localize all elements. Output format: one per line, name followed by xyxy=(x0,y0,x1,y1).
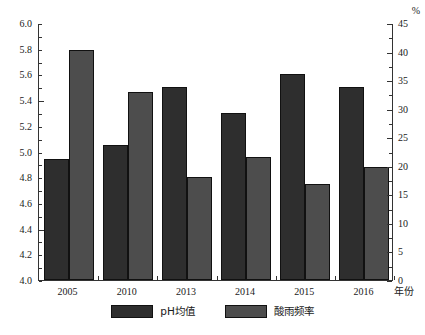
bar-ph-2013 xyxy=(162,87,187,280)
right-axis-major-tick xyxy=(387,24,392,25)
left-axis-minor-tick xyxy=(39,114,42,115)
bar-ph-2010 xyxy=(103,145,128,280)
legend-swatch-icon xyxy=(111,305,153,318)
right-axis-tick-label: 25 xyxy=(398,133,408,143)
left-axis-minor-tick xyxy=(39,268,42,269)
left-axis-major-tick xyxy=(39,101,44,102)
right-axis-minor-tick xyxy=(389,153,392,154)
right-axis-unit-label: % xyxy=(412,6,420,16)
left-axis-minor-tick xyxy=(39,140,42,141)
bar-ph-2016 xyxy=(339,87,364,280)
x-axis-tick xyxy=(157,276,158,280)
left-axis-minor-tick xyxy=(39,75,42,76)
legend-entry-ph: pH均值 xyxy=(111,305,195,318)
bar-ph-2015 xyxy=(280,74,305,280)
left-axis-minor-tick xyxy=(39,50,42,51)
right-axis-minor-tick xyxy=(389,95,392,96)
bar-ph-2005 xyxy=(44,159,69,280)
x-axis-label-2015: 2015 xyxy=(275,287,334,297)
right-axis-tick-label: 20 xyxy=(398,162,408,172)
left-axis-minor-tick xyxy=(39,191,42,192)
right-axis-major-tick xyxy=(387,252,392,253)
x-axis-title: 年份 xyxy=(394,287,414,297)
left-axis-minor-tick xyxy=(39,127,42,128)
left-axis-major-tick xyxy=(39,230,44,231)
legend-label: 酸雨频率 xyxy=(274,306,314,317)
legend-swatch-icon xyxy=(225,305,267,318)
legend-label: pH均值 xyxy=(160,306,195,317)
right-axis-minor-tick xyxy=(389,267,392,268)
right-axis-major-tick xyxy=(387,53,392,54)
right-axis-minor-tick xyxy=(389,238,392,239)
right-axis-major-tick xyxy=(387,81,392,82)
right-axis-minor-tick xyxy=(389,181,392,182)
left-axis-tick-label: 4.6 xyxy=(20,199,33,209)
right-axis-major-tick xyxy=(387,138,392,139)
bar-frequency-2014 xyxy=(246,157,271,280)
x-axis-tick xyxy=(276,276,277,280)
right-axis-major-tick xyxy=(387,224,392,225)
left-axis-tick-label: 5.8 xyxy=(20,45,33,55)
right-axis-major-tick xyxy=(387,110,392,111)
bar-ph-2014 xyxy=(221,113,246,280)
x-axis-tick xyxy=(98,276,99,280)
bar-frequency-2005 xyxy=(69,50,94,280)
right-axis-tick-label: 30 xyxy=(398,105,408,115)
legend-entry-frequency: 酸雨频率 xyxy=(225,305,314,318)
right-axis-major-tick xyxy=(387,195,392,196)
bar-frequency-2016 xyxy=(364,167,389,280)
left-axis-minor-tick xyxy=(39,165,42,166)
left-axis-tick-label: 4.4 xyxy=(20,225,33,235)
right-axis-tick-label: 10 xyxy=(398,219,408,229)
bar-frequency-2010 xyxy=(128,92,153,280)
chart-legend: pH均值酸雨频率 xyxy=(0,305,425,318)
right-axis-tick-label: 45 xyxy=(398,19,408,29)
x-axis-label-2010: 2010 xyxy=(97,287,156,297)
x-axis-tick xyxy=(394,276,395,280)
left-axis-minor-tick xyxy=(39,63,42,64)
left-axis-minor-tick xyxy=(39,242,42,243)
x-axis-label-2014: 2014 xyxy=(216,287,275,297)
x-axis-label-2005: 2005 xyxy=(38,287,97,297)
left-axis-minor-tick xyxy=(39,178,42,179)
left-axis-minor-tick xyxy=(39,153,42,154)
right-axis-tick-label: 40 xyxy=(398,48,408,58)
acid-rain-chart: % 4.04.24.44.64.85.05.25.45.65.86.005101… xyxy=(0,0,425,335)
right-axis-tick-label: 0 xyxy=(398,276,403,286)
right-axis-minor-tick xyxy=(389,124,392,125)
right-axis-tick-label: 5 xyxy=(398,247,403,257)
left-axis-tick-label: 4.0 xyxy=(20,276,33,286)
left-axis-minor-tick xyxy=(39,88,42,89)
left-axis-tick-label: 4.2 xyxy=(20,250,33,260)
left-axis-minor-tick xyxy=(39,24,42,25)
left-axis-tick-label: 6.0 xyxy=(20,19,33,29)
left-axis-minor-tick xyxy=(39,281,42,282)
x-axis-tick xyxy=(217,276,218,280)
right-axis-major-tick xyxy=(387,167,392,168)
x-axis-label-2013: 2013 xyxy=(156,287,215,297)
left-axis-tick-label: 5.0 xyxy=(20,148,33,158)
left-axis-tick-label: 5.2 xyxy=(20,122,33,132)
left-axis-tick-label: 5.4 xyxy=(20,96,33,106)
plot-area xyxy=(38,24,393,281)
x-axis-label-2016: 2016 xyxy=(334,287,393,297)
left-axis-minor-tick xyxy=(39,255,42,256)
right-axis-minor-tick xyxy=(389,38,392,39)
x-axis-tick xyxy=(335,276,336,280)
right-axis-tick-label: 15 xyxy=(398,190,408,200)
right-axis-major-tick xyxy=(387,281,392,282)
right-axis-minor-tick xyxy=(389,67,392,68)
left-axis-tick-label: 4.8 xyxy=(20,173,33,183)
right-axis-minor-tick xyxy=(389,210,392,211)
left-axis-tick-label: 5.6 xyxy=(20,70,33,80)
bar-frequency-2015 xyxy=(305,184,330,280)
left-axis-minor-tick xyxy=(39,37,42,38)
bar-frequency-2013 xyxy=(187,177,212,280)
left-axis-minor-tick xyxy=(39,204,42,205)
left-axis-minor-tick xyxy=(39,217,42,218)
right-axis-tick-label: 35 xyxy=(398,76,408,86)
